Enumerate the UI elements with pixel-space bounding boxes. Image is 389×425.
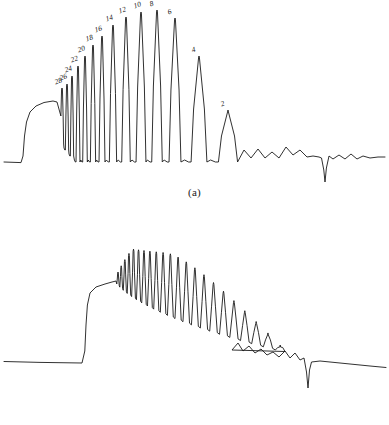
peak-label-18: 18 bbox=[84, 32, 94, 43]
figure-root: 282624222018161412108642 (a) (b) bbox=[0, 0, 389, 425]
peak-label-2: 2 bbox=[219, 99, 226, 109]
peak-label-10: 10 bbox=[132, 0, 142, 10]
peak-label-24: 24 bbox=[63, 63, 73, 74]
peak-label-20: 20 bbox=[76, 43, 86, 54]
peak-label-4: 4 bbox=[190, 45, 197, 55]
peak-label-16: 16 bbox=[93, 23, 103, 34]
peak-label-12: 12 bbox=[117, 4, 127, 15]
peak-label-6: 6 bbox=[166, 7, 173, 17]
peak-label-14: 14 bbox=[104, 12, 114, 23]
panel-a-chart: 282624222018161412108642 bbox=[0, 0, 389, 190]
peak-label-22: 22 bbox=[69, 53, 79, 64]
panel-b-chart bbox=[0, 210, 389, 398]
panel-a-caption: (a) bbox=[0, 186, 389, 198]
peak-label-8: 8 bbox=[148, 0, 155, 8]
panel-a: 282624222018161412108642 (a) bbox=[0, 0, 389, 212]
panel-b: (b) bbox=[0, 210, 389, 425]
panel-a-trace-line bbox=[4, 10, 385, 182]
panel-b-trace-line bbox=[4, 249, 386, 388]
